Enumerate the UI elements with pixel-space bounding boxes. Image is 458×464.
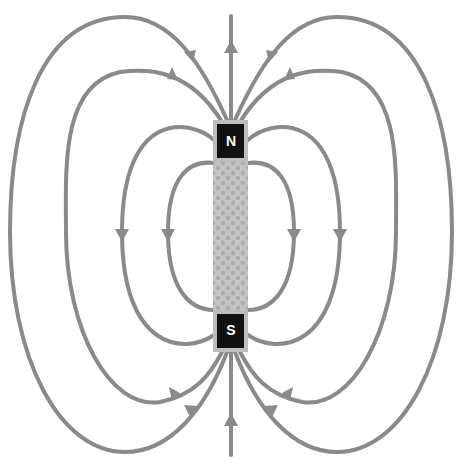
arrow-down-icon bbox=[333, 229, 347, 242]
bar-magnet bbox=[213, 120, 248, 352]
magnet-body bbox=[213, 158, 248, 314]
field-line-right-3 bbox=[240, 71, 396, 403]
field-line-left-3 bbox=[66, 71, 222, 403]
arrow-down-icon bbox=[287, 229, 301, 242]
arrow-down-icon bbox=[115, 229, 129, 242]
arrow-down-icon bbox=[161, 229, 175, 242]
field-line-left-1 bbox=[168, 163, 214, 310]
arrow-up-icon bbox=[224, 40, 238, 53]
south-pole-label: S bbox=[213, 322, 249, 338]
magnetic-field-diagram bbox=[0, 0, 458, 464]
field-line-right-1 bbox=[248, 163, 294, 310]
north-pole-label: N bbox=[213, 133, 249, 149]
arrow-up-icon bbox=[224, 413, 238, 426]
